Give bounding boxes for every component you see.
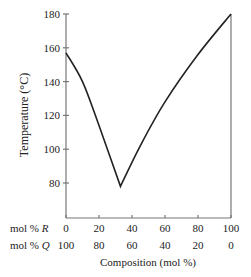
x-tick-label-Q: 0	[228, 239, 234, 251]
x-tick-label-Q: 40	[160, 239, 172, 251]
x-tick-label-R: 60	[160, 222, 172, 234]
y-axis-label: Temperature (°C)	[17, 73, 31, 157]
x-tick-label-R: 80	[193, 222, 205, 234]
x-tick-label-R: 100	[223, 222, 240, 234]
y-tick-label: 160	[44, 42, 61, 54]
x-tick-label-R: 20	[94, 222, 106, 234]
y-tick-label: 80	[49, 177, 61, 189]
x-tick-label-Q: 20	[193, 239, 205, 251]
liquidus-curve	[66, 14, 231, 186]
y-tick-label: 140	[44, 76, 61, 88]
x-tick-label-R: 0	[63, 222, 69, 234]
y-tick-label: 120	[44, 109, 61, 121]
x-tick-label-R: 40	[127, 222, 139, 234]
row-label-Q: mol % Q	[10, 239, 50, 251]
row-label-R: mol % R	[10, 222, 49, 234]
y-tick-label: 100	[44, 143, 61, 155]
x-tick-label-Q: 60	[127, 239, 139, 251]
phase-diagram-chart: 8010012014016018001002080406060408020100…	[0, 0, 251, 277]
x-tick-label-Q: 80	[94, 239, 106, 251]
y-tick-label: 180	[44, 8, 61, 20]
tick-labels: 8010012014016018001002080406060408020100…	[44, 8, 240, 251]
x-axis-label: Composition (mol %)	[100, 256, 196, 269]
x-tick-label-Q: 100	[58, 239, 75, 251]
